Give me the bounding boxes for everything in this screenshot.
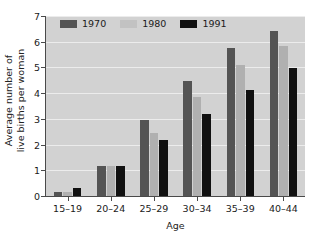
x-axis-tick [111, 197, 112, 201]
gridline [46, 119, 305, 120]
y-axis-tick [41, 145, 45, 146]
y-axis-tick [41, 93, 45, 94]
y-axis-tick-label: 7 [28, 11, 40, 22]
bar [73, 188, 82, 196]
bar [289, 68, 298, 196]
x-axis-tick [68, 197, 69, 201]
bar [97, 166, 106, 196]
bar [159, 140, 168, 196]
y-axis-tick-label: 3 [28, 113, 40, 124]
x-axis-tick [240, 197, 241, 201]
x-axis-tick [154, 197, 155, 201]
legend-item: 1970 [60, 19, 106, 29]
legend-item: 1991 [180, 19, 226, 29]
legend-swatch-1970 [60, 20, 77, 28]
bar [140, 120, 149, 196]
x-axis-line [45, 196, 305, 197]
y-axis-tick [41, 16, 45, 17]
bar [193, 97, 202, 196]
legend-swatch-1980 [120, 20, 137, 28]
y-axis-tick [41, 196, 45, 197]
x-axis-tick-label: 20–24 [96, 203, 125, 214]
bar [54, 192, 63, 196]
x-axis-tick [283, 197, 284, 201]
bar [279, 46, 288, 196]
y-axis-tick-label: 4 [28, 88, 40, 99]
y-axis-tick-label: 5 [28, 62, 40, 73]
bar [227, 48, 236, 196]
gridline [46, 42, 305, 43]
plot-area [46, 16, 305, 196]
y-axis-tick [41, 119, 45, 120]
legend-label: 1991 [202, 19, 226, 29]
bar [270, 31, 279, 196]
y-axis-tick-label: 0 [28, 191, 40, 202]
legend-swatch-1991 [180, 20, 197, 28]
bar [183, 81, 192, 196]
bar [202, 114, 211, 196]
y-axis-title-line2: live births per woman [15, 48, 27, 152]
legend-label: 1980 [142, 19, 166, 29]
bar [150, 133, 159, 196]
x-axis-tick-label: 40–44 [269, 203, 298, 214]
gridline [46, 16, 305, 17]
x-axis-title: Age [46, 220, 305, 231]
bar [246, 90, 255, 196]
x-axis-tick-label: 35–39 [226, 203, 255, 214]
bar [236, 65, 245, 196]
gridline [46, 170, 305, 171]
bar [107, 166, 116, 196]
gridline [46, 67, 305, 68]
bar [116, 166, 125, 196]
x-axis-tick-label: 25–29 [139, 203, 168, 214]
y-axis-tick-label: 1 [28, 165, 40, 176]
legend: 197019801991 [60, 19, 227, 29]
x-axis-tick-label: 30–34 [183, 203, 212, 214]
y-axis-tick-labels: 01234567 [26, 0, 40, 240]
x-axis-tick [197, 197, 198, 201]
x-axis-tick-label: 15–19 [53, 203, 82, 214]
legend-item: 1980 [120, 19, 166, 29]
gridline [46, 93, 305, 94]
y-axis-tick-label: 2 [28, 139, 40, 150]
bar-chart: Average number of live births per woman … [0, 0, 314, 240]
y-axis-tick [41, 170, 45, 171]
y-axis-title-line1: Average number of [4, 48, 16, 152]
y-axis-tick [41, 67, 45, 68]
y-axis-tick-label: 6 [28, 36, 40, 47]
bar [63, 192, 72, 196]
legend-label: 1970 [82, 19, 106, 29]
y-axis-tick [41, 42, 45, 43]
gridline [46, 145, 305, 146]
